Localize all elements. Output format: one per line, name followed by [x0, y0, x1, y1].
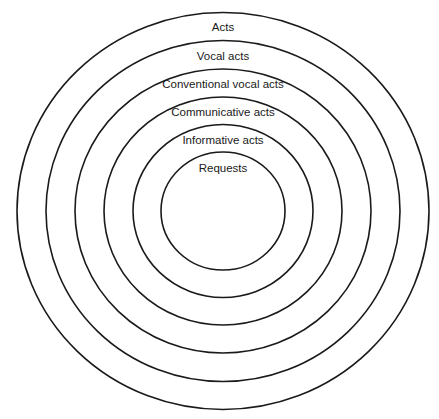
ring-informative-acts: [133, 125, 313, 298]
ring-label: Requests: [199, 162, 248, 174]
ring-label: Communicative acts: [171, 106, 275, 118]
ring-label: Acts: [212, 21, 235, 33]
ring-label: Conventional vocal acts: [162, 78, 284, 90]
nested-acts-diagram: ActsVocal actsConventional vocal actsCom…: [0, 0, 439, 419]
ring-acts: [17, 13, 429, 410]
ring-label: Vocal acts: [197, 50, 250, 62]
ring-communicative-acts: [104, 97, 342, 325]
ring-vocal-acts: [46, 41, 400, 382]
ring-label: Informative acts: [182, 134, 263, 146]
